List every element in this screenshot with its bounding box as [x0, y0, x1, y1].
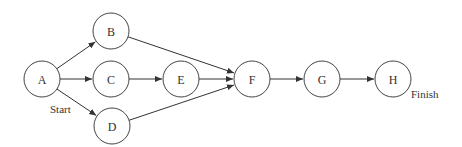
node-label: B — [107, 25, 115, 39]
node-f: F — [234, 61, 270, 97]
node-a: A — [24, 61, 60, 97]
node-label: F — [249, 73, 256, 87]
node-label: G — [318, 73, 327, 87]
node-label: C — [107, 73, 115, 87]
edge-a-to-b — [57, 42, 96, 69]
node-b: B — [93, 13, 129, 49]
node-g: G — [304, 61, 340, 97]
start-label: Start — [50, 103, 71, 115]
node-c: C — [93, 61, 129, 97]
node-label: H — [389, 73, 398, 87]
node-e: E — [163, 61, 199, 97]
node-label: A — [38, 73, 47, 87]
node-label: E — [177, 73, 184, 87]
node-h: H — [375, 61, 411, 97]
node-d: D — [94, 108, 130, 144]
precedence-diagram: ABCDEFGH Start Finish — [0, 0, 462, 147]
finish-label: Finish — [411, 88, 439, 100]
node-label: D — [108, 120, 117, 134]
